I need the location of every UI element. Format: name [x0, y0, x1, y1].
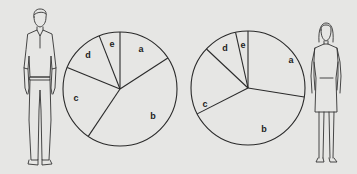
slice-divider: [206, 49, 248, 88]
slice-divider: [67, 67, 120, 89]
slice-label-e: e: [240, 40, 245, 50]
woman-figure: [311, 23, 341, 162]
man-figure: [24, 9, 56, 165]
slice-label-e: e: [109, 39, 114, 49]
pie-charts: abcdeabcde: [63, 31, 305, 146]
pie-chart-man: abcde: [63, 32, 177, 146]
pie-chart-woman: abcde: [191, 31, 305, 145]
slice-label-a: a: [288, 55, 294, 65]
slice-divider: [120, 58, 168, 89]
slice-label-b: b: [261, 124, 267, 134]
diagram-stage: abcdeabcde: [0, 0, 357, 174]
slice-divider: [88, 89, 120, 136]
diagram-canvas: abcdeabcde: [0, 0, 357, 174]
slice-label-a: a: [138, 44, 144, 54]
slice-label-d: d: [222, 43, 228, 53]
slice-divider: [248, 88, 304, 97]
slice-label-c: c: [202, 99, 207, 109]
slice-label-c: c: [73, 93, 78, 103]
slice-label-b: b: [150, 111, 156, 121]
slice-label-d: d: [85, 50, 91, 60]
